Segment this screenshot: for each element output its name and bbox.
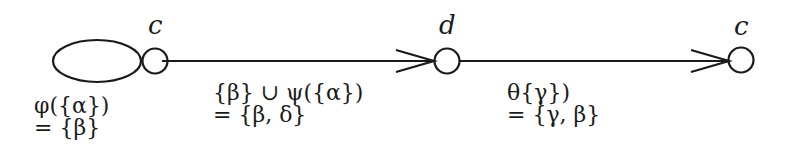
diagram-canvas xyxy=(0,0,786,153)
node-label-d: d xyxy=(439,12,456,38)
edge1-annotation: {β} ∪ ψ({α}) = {β, δ} xyxy=(213,82,363,126)
start-annotation-line1: φ({α}) xyxy=(34,95,109,117)
node-d xyxy=(435,49,460,74)
node-label-c-first: c xyxy=(148,12,163,38)
start-ellipse xyxy=(53,40,141,82)
edge1-annotation-line2: = {β, δ} xyxy=(213,104,363,126)
edge2-annotation-line1: θ{γ}) xyxy=(507,82,600,104)
node-c-last xyxy=(729,48,754,73)
edge2-annotation-line2: = {γ, β} xyxy=(507,104,600,126)
edge2-annotation: θ{γ}) = {γ, β} xyxy=(507,82,600,126)
node-label-c-last: c xyxy=(734,13,749,39)
edge1-annotation-line1: {β} ∪ ψ({α}) xyxy=(213,82,363,104)
start-annotation: φ({α}) = {β} xyxy=(34,95,109,139)
start-annotation-line2: = {β} xyxy=(34,117,109,139)
